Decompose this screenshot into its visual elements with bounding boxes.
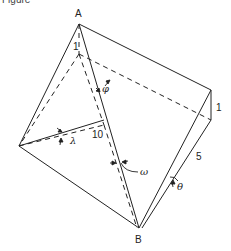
angle-phi-label: φ bbox=[102, 83, 109, 94]
dimension-inner-height: 1 bbox=[73, 41, 79, 52]
angle-omega-label: ω bbox=[140, 166, 148, 177]
dimension-right-height: 1 bbox=[216, 102, 222, 113]
prism-diagram: A B 1 1 10 5 φ λ ω θ bbox=[0, 0, 231, 251]
vertex-label-a: A bbox=[75, 8, 82, 19]
solid-edges bbox=[19, 24, 211, 228]
angle-lambda-label: λ bbox=[69, 135, 76, 146]
dimension-slant: 5 bbox=[196, 151, 202, 162]
angle-markers bbox=[57, 80, 178, 187]
dimension-length: 10 bbox=[92, 129, 104, 140]
angle-theta-label: θ bbox=[177, 181, 183, 192]
vertex-label-b: B bbox=[135, 234, 142, 245]
hidden-edges bbox=[19, 24, 211, 228]
